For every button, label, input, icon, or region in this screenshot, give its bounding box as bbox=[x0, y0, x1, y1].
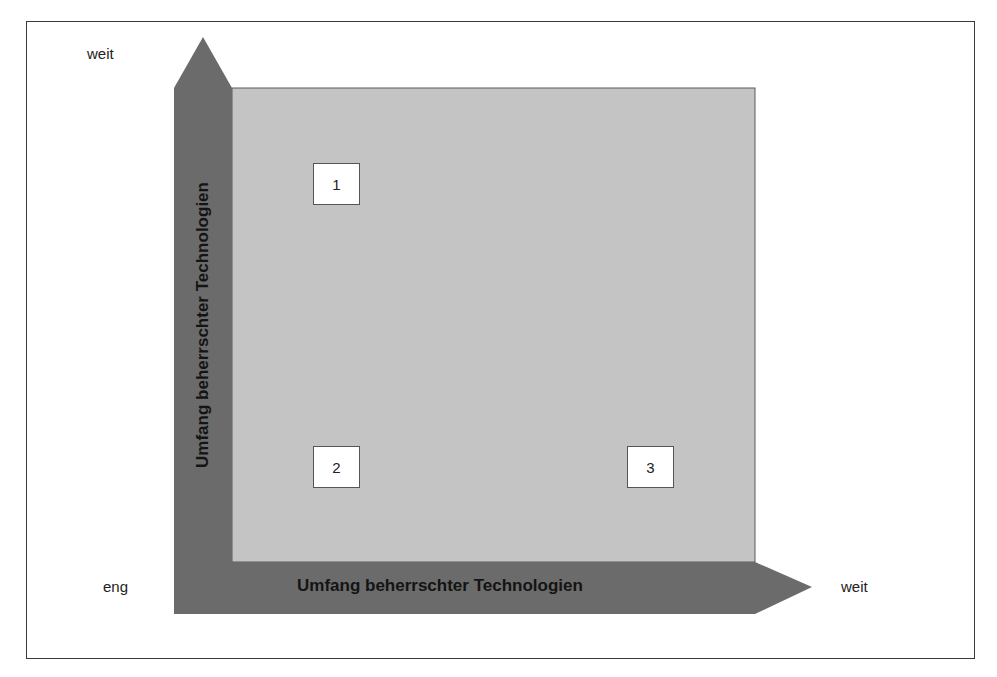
x-axis-low-label: eng bbox=[103, 578, 128, 595]
quadrant-marker-2: 2 bbox=[313, 446, 360, 488]
y-axis-high-label: weit bbox=[87, 45, 114, 62]
matrix-field bbox=[232, 88, 755, 562]
quadrant-marker-3: 3 bbox=[627, 446, 674, 488]
x-axis-title: Umfang beherrschter Technologien bbox=[297, 576, 583, 596]
quadrant-marker-label: 1 bbox=[332, 176, 340, 193]
quadrant-marker-label: 3 bbox=[646, 459, 654, 476]
quadrant-marker-1: 1 bbox=[313, 163, 360, 205]
y-axis-title: Umfang beherrschter Technologien bbox=[193, 182, 213, 468]
quadrant-marker-label: 2 bbox=[332, 459, 340, 476]
x-axis-high-label: weit bbox=[841, 578, 868, 595]
